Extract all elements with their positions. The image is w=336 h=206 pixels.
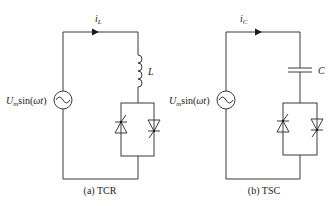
current-arrow-icon bbox=[92, 29, 99, 36]
inductor-icon bbox=[138, 55, 142, 87]
inductor-label: L bbox=[147, 66, 154, 77]
tcr-circuit bbox=[54, 32, 160, 179]
current-arrow-icon bbox=[255, 29, 262, 36]
circuit-diagram: iL L Umsin(ωt) (a) TCR iC C Umsin(ωt) (b… bbox=[0, 0, 336, 206]
current-label-ic: iC bbox=[240, 13, 248, 26]
caption-tsc: (b) TSC bbox=[248, 185, 281, 197]
capacitor-label: C bbox=[318, 65, 325, 76]
capacitor-icon bbox=[288, 68, 312, 72]
source-label-b: Umsin(ωt) bbox=[169, 95, 209, 108]
ac-source-icon bbox=[54, 91, 72, 109]
current-label-il: iL bbox=[95, 13, 102, 26]
caption-tcr: (a) TCR bbox=[84, 185, 117, 197]
ac-source-icon bbox=[217, 91, 235, 109]
source-label-a: Umsin(ωt) bbox=[6, 95, 46, 108]
tsc-circuit bbox=[217, 32, 323, 179]
